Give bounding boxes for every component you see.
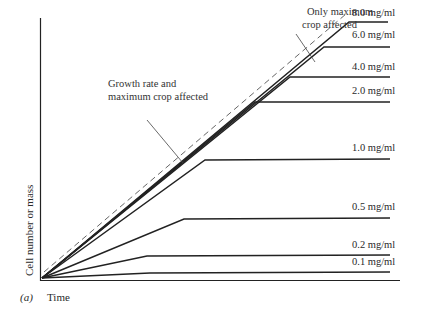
label-0-5: 0.5 mg/ml — [352, 201, 395, 212]
panel-label: (a) — [20, 291, 33, 304]
y-axis-title: Cell number or mass — [23, 185, 35, 276]
label-8-0: 8.0 mg/ml — [352, 7, 395, 18]
annotation-mid-line1: Growth rate and — [108, 78, 177, 89]
annotation-top-line2: crop affected — [302, 19, 358, 30]
label-0-2: 0.2 mg/ml — [352, 239, 395, 250]
label-6-0: 6.0 mg/ml — [352, 29, 395, 40]
series-0-2 — [42, 255, 390, 278]
label-2-0: 2.0 mg/ml — [352, 85, 395, 96]
reference-dashed-line — [44, 14, 346, 272]
x-axis-title: Time — [47, 291, 70, 303]
label-1-0: 1.0 mg/ml — [352, 142, 395, 153]
series-4-0 — [42, 77, 390, 278]
label-4-0: 4.0 mg/ml — [352, 61, 395, 72]
annotation-mid-line2: maximum crop affected — [108, 91, 209, 102]
annotation-mid-leader — [147, 120, 183, 163]
series-0-5 — [42, 218, 390, 278]
series-0-1 — [42, 272, 390, 278]
series-2-0 — [42, 102, 390, 278]
growth-chart: Only maximum crop affected Growth rate a… — [0, 0, 429, 311]
label-0-1: 0.1 mg/ml — [352, 256, 395, 267]
series-6-0 — [42, 47, 390, 278]
